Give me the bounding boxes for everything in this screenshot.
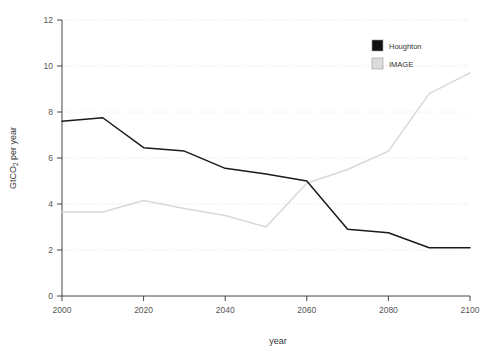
y-tick-label-2: 2 bbox=[48, 245, 53, 255]
legend-swatch-houghton bbox=[372, 40, 383, 51]
emissions-line-chart: 024681012 200020202040206020802100 year … bbox=[0, 0, 488, 358]
legend-item-houghton: Houghton bbox=[372, 40, 422, 51]
x-tick-label-2080: 2080 bbox=[379, 305, 398, 315]
x-axis-title: year bbox=[269, 336, 287, 346]
legend-swatch-image bbox=[372, 58, 383, 69]
y-tick-label-6: 6 bbox=[48, 153, 53, 163]
chart-container: 024681012 200020202040206020802100 year … bbox=[0, 0, 488, 358]
y-axis-title: GtCO2 per year bbox=[8, 127, 19, 189]
x-tick-label-2060: 2060 bbox=[297, 305, 316, 315]
y-tick-label-8: 8 bbox=[48, 107, 53, 117]
x-tick-label-2000: 2000 bbox=[53, 305, 72, 315]
y-tick-label-12: 12 bbox=[44, 15, 54, 25]
y-tick-label-10: 10 bbox=[44, 61, 54, 71]
legend-item-image: IMAGE bbox=[372, 58, 413, 69]
y-axis-title-post: per year bbox=[8, 127, 18, 163]
x-tick-label-2020: 2020 bbox=[134, 305, 153, 315]
y-tick-label-4: 4 bbox=[48, 199, 53, 209]
y-axis-title-pre: GtCO bbox=[8, 166, 18, 189]
y-tick-label-0: 0 bbox=[48, 291, 53, 301]
legend-label-image: IMAGE bbox=[389, 60, 413, 69]
chart-background bbox=[0, 0, 488, 358]
legend-label-houghton: Houghton bbox=[389, 42, 422, 51]
x-tick-label-2040: 2040 bbox=[216, 305, 235, 315]
x-tick-label-2100: 2100 bbox=[461, 305, 480, 315]
svg-text:GtCO2 per year: GtCO2 per year bbox=[8, 127, 19, 189]
